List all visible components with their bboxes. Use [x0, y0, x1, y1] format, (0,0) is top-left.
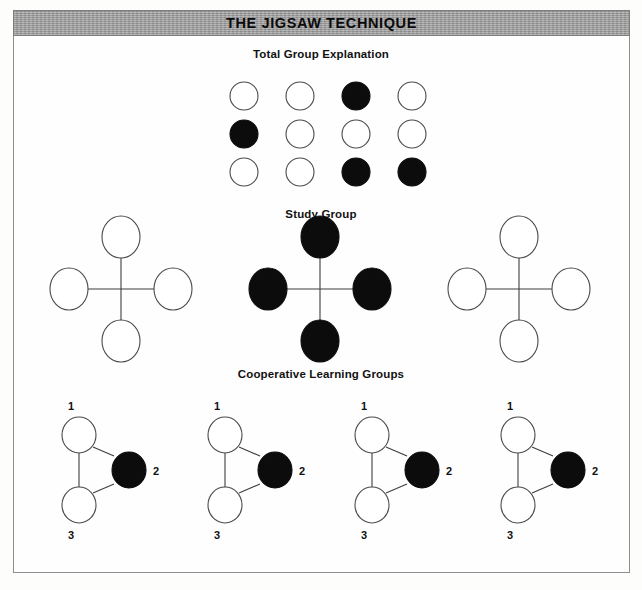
page-title: THE JIGSAW TECHNIQUE: [226, 15, 417, 31]
node-open-r1c1[interactable]: [230, 82, 258, 110]
figure-frame: [13, 10, 630, 573]
node-open-r2c2[interactable]: [286, 120, 314, 148]
node-open-member-3[interactable]: [355, 487, 389, 523]
jigsaw-technique-figure: THE JIGSAW TECHNIQUE Total Group Explana…: [0, 0, 642, 590]
node-open-top[interactable]: [102, 216, 140, 258]
node-open-r1c4[interactable]: [398, 82, 426, 110]
node-filled-r3c4[interactable]: [398, 158, 426, 186]
node-open-r3c2[interactable]: [286, 158, 314, 186]
node-open-member-1[interactable]: [355, 417, 389, 453]
node-filled-r3c3[interactable]: [342, 158, 370, 186]
node-open-r3c1[interactable]: [230, 158, 258, 186]
node-open-left[interactable]: [50, 268, 88, 310]
node-open-member-1[interactable]: [501, 417, 535, 453]
node-open-r2c4[interactable]: [398, 120, 426, 148]
node-open-r1c2[interactable]: [286, 82, 314, 110]
node-filled-member-2[interactable]: [112, 452, 146, 488]
node-open-bottom[interactable]: [500, 320, 538, 362]
figure-title-bar: THE JIGSAW TECHNIQUE: [13, 10, 630, 36]
section-heading-cooperative-learning-groups: Cooperative Learning Groups: [0, 368, 642, 380]
node-open-member-1[interactable]: [62, 417, 96, 453]
node-open-member-3[interactable]: [501, 487, 535, 523]
node-filled-member-2[interactable]: [258, 452, 292, 488]
node-open-bottom[interactable]: [102, 320, 140, 362]
node-open-member-1[interactable]: [208, 417, 242, 453]
node-filled-r2c1[interactable]: [230, 120, 258, 148]
node-filled-left[interactable]: [249, 268, 287, 310]
node-filled-bottom[interactable]: [301, 320, 339, 362]
node-open-right[interactable]: [552, 268, 590, 310]
section-heading-total-group: Total Group Explanation: [0, 48, 642, 60]
node-open-left[interactable]: [448, 268, 486, 310]
node-filled-r1c3[interactable]: [342, 82, 370, 110]
node-open-top[interactable]: [500, 216, 538, 258]
node-filled-right[interactable]: [353, 268, 391, 310]
node-filled-top[interactable]: [301, 216, 339, 258]
node-filled-member-2[interactable]: [551, 452, 585, 488]
node-open-r2c3[interactable]: [342, 120, 370, 148]
node-open-member-3[interactable]: [62, 487, 96, 523]
node-filled-member-2[interactable]: [405, 452, 439, 488]
node-open-member-3[interactable]: [208, 487, 242, 523]
node-open-right[interactable]: [154, 268, 192, 310]
